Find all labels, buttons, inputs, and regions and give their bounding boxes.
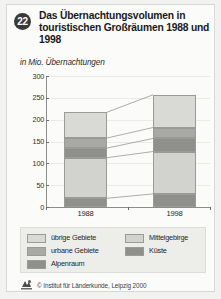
connector-line xyxy=(107,138,153,148)
x-axis-tick-mark xyxy=(128,207,129,210)
legend-swatch xyxy=(125,247,144,256)
legend-swatch xyxy=(27,260,46,269)
legend-swatch xyxy=(125,234,144,243)
x-axis-tick-mark xyxy=(46,207,47,210)
x-axis-label-1988: 1988 xyxy=(61,209,111,218)
connector-line xyxy=(107,95,153,112)
figure-number-badge: 22 xyxy=(14,13,31,30)
legend-label: übrige Gebiete xyxy=(51,233,96,242)
figure-card: 22 Das Übernachtungsvolumen in touristis… xyxy=(6,4,215,292)
legend-label: urbane Gebiete xyxy=(51,246,99,255)
connector-line xyxy=(107,152,153,158)
legend-swatch xyxy=(27,234,46,243)
ifl-logo-icon xyxy=(20,279,33,291)
legend-label: Alpenraum xyxy=(51,259,85,268)
segment-connector-lines xyxy=(7,71,216,223)
chart-legend: übrige GebieteMittelgebirgeurbane Gebiet… xyxy=(20,227,206,273)
connector-line xyxy=(107,194,153,198)
copyright-text: © Institut für Länderkunde, Leipzig 2000 xyxy=(37,282,146,289)
x-axis-tick-mark xyxy=(210,207,211,210)
legend-label: Mittelgebirge xyxy=(149,233,188,242)
legend-swatch xyxy=(27,247,46,256)
chart-plot-area: 050100150200250300 19881998 xyxy=(7,71,216,223)
x-axis-label-1998: 1998 xyxy=(150,209,200,218)
connector-line xyxy=(107,128,153,138)
figure-footer: © Institut für Länderkunde, Leipzig 2000 xyxy=(20,279,210,293)
page-title: Das Übernachtungsvolumen in touristische… xyxy=(39,10,211,45)
figure-header: 22 Das Übernachtungsvolumen in touristis… xyxy=(7,5,214,57)
legend-label: Küste xyxy=(149,246,167,255)
x-axis-labels: 19881998 xyxy=(7,209,216,221)
chart-subtitle: in Mio. Übernachtungen xyxy=(20,58,105,67)
